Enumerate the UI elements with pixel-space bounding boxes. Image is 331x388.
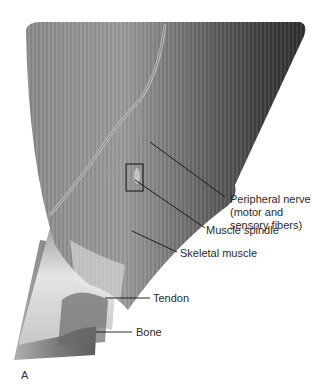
panel-letter: A [21, 369, 28, 381]
label-bone: Bone [136, 326, 162, 339]
label-skeletal-muscle: Skeletal muscle [180, 247, 257, 260]
label-tendon: Tendon [153, 292, 189, 305]
label-muscle-spindle: Muscle spindle [206, 224, 279, 237]
label-nerve-line-2: (motor and [230, 206, 311, 219]
label-nerve-line-1: Peripheral nerve [230, 193, 311, 206]
anatomy-figure: Peripheral nerve (motor and sensory fibe… [0, 0, 331, 388]
